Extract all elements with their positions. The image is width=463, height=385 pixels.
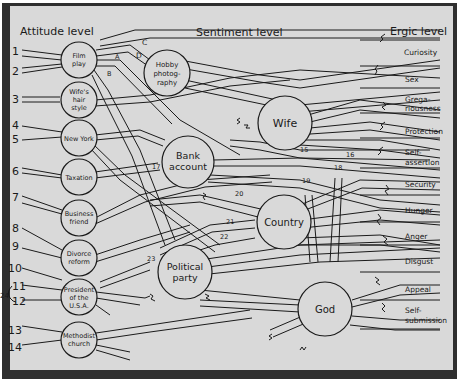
path-label-21: 21: [226, 218, 234, 226]
num-11: 11: [12, 280, 26, 293]
erg-riousness: riousness: [405, 104, 441, 113]
path-label-15: 15: [300, 146, 308, 154]
label-bank: Bank: [176, 150, 200, 161]
erg-sex: Sex: [405, 75, 419, 84]
erg-curiosity: Curiosity: [404, 48, 438, 57]
erg-protection: Protection: [405, 127, 443, 136]
num-8: 8: [12, 222, 19, 235]
label-account: account: [169, 161, 207, 172]
label-divorce: Divorce: [67, 250, 92, 258]
path-label-c: C: [142, 38, 147, 47]
label-friend: friend: [69, 218, 88, 226]
label-methodist: Methodist: [63, 332, 96, 340]
path-label-17: 17: [152, 163, 160, 171]
num-5: 5: [12, 133, 19, 146]
path-label-16: 16: [346, 151, 354, 159]
label-wife: Wife: [273, 117, 298, 130]
path-label-d: D: [136, 51, 142, 60]
label-wifes: Wife's: [69, 88, 89, 96]
erg-labels: Curiosity Sex Grega- riousness Protectio…: [404, 48, 447, 325]
label-church: church: [68, 340, 90, 348]
label-god: God: [315, 304, 335, 315]
path-label-19: 19: [302, 177, 310, 185]
label-taxation: Taxation: [64, 174, 92, 182]
erg-security: Security: [405, 180, 436, 189]
erg-disgust: Disgust: [405, 257, 433, 266]
num-2: 2: [12, 65, 19, 78]
label-raphy: raphy: [157, 79, 177, 87]
label-hair: hair: [73, 96, 86, 104]
path-label-a: A: [115, 53, 120, 61]
label-film: Film: [72, 52, 85, 60]
num-7: 7: [12, 191, 19, 204]
sentiment-labels: Hobby photog- raphy Wife Bank account Co…: [153, 61, 335, 315]
header-sentiment: Sentiment level: [196, 26, 283, 39]
header-ergic: Ergic level: [390, 25, 447, 38]
path-label-20: 20: [235, 190, 243, 198]
num-1: 1: [12, 45, 19, 58]
erg-appeal: Appeal: [405, 285, 431, 294]
erg-anger: Anger: [405, 232, 428, 241]
label-new-york: New York: [64, 135, 94, 143]
label-business: Business: [65, 210, 94, 218]
label-style: style: [71, 104, 87, 112]
attitude-numbers: 1 2 3 4 5 6 7 8 9 10 11 12 13 14: [8, 45, 26, 354]
num-4: 4: [12, 119, 19, 132]
erg-grega: Grega-: [405, 95, 431, 104]
num-9: 9: [12, 240, 19, 253]
erg-self-sub: Self-: [405, 306, 422, 315]
header-attitude: Attitude level: [20, 25, 94, 38]
num-6: 6: [12, 165, 19, 178]
dynamic-lattice-diagram: Attitude level Sentiment level Ergic lev…: [0, 0, 463, 385]
label-political: Political: [167, 261, 204, 272]
path-label-23: 23: [147, 255, 155, 263]
num-10: 10: [8, 262, 22, 275]
erg-assertion: assertion: [405, 158, 440, 167]
num-13: 13: [8, 324, 22, 337]
label-usa: U.S.A.: [69, 302, 88, 310]
erg-submission: submission: [405, 316, 447, 325]
label-play: play: [72, 60, 86, 68]
erg-self: Self-: [405, 148, 422, 157]
label-hobby: Hobby: [156, 61, 179, 69]
attitude-stubs: [22, 50, 62, 345]
label-of-the: of the: [70, 294, 89, 302]
label-party: party: [172, 272, 197, 283]
path-label-b: B: [107, 70, 111, 78]
num-14: 14: [8, 341, 22, 354]
num-3: 3: [12, 93, 19, 106]
label-country: Country: [264, 217, 304, 228]
label-photog: photog-: [153, 70, 181, 78]
erg-hunger: Hunger: [405, 206, 434, 215]
path-label-18: 18: [334, 164, 342, 172]
label-president: President: [64, 286, 95, 294]
label-reform: reform: [68, 258, 90, 266]
path-label-22: 22: [220, 233, 228, 241]
